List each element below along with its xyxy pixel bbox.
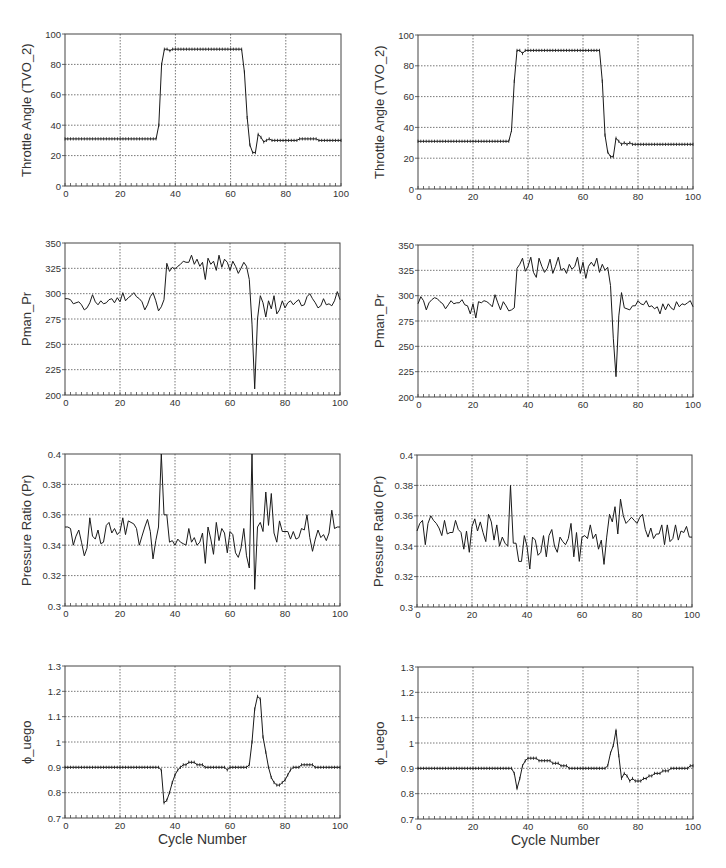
y-tick-label: 20 [403, 153, 414, 164]
x-tick-label: 60 [225, 397, 236, 408]
x-axis-label: Cycle Number [158, 831, 247, 847]
y-tick-label: 0 [409, 184, 414, 195]
plot-frame [65, 34, 341, 186]
y-axis-label: ϕ_uego [372, 721, 387, 764]
y-tick-label: 200 [45, 390, 61, 401]
x-tick-label: 20 [467, 609, 478, 620]
x-tick-label: 40 [170, 188, 181, 199]
y-tick-label: 350 [45, 238, 61, 249]
y-axis-label: Pman_Pr [372, 294, 387, 348]
x-tick-label: 80 [633, 191, 644, 202]
plot-frame [418, 667, 693, 819]
y-tick-label: 0.34 [43, 540, 62, 551]
y-tick-label: 250 [45, 339, 61, 350]
plot-area: 0.30.320.340.360.380.4020406080100 [65, 454, 340, 606]
y-axis-label: ϕ_uego [19, 720, 34, 763]
y-tick-label: 100 [45, 29, 61, 40]
plot-area: 0.30.320.340.360.380.4020406080100 [417, 455, 692, 607]
y-tick-label: 0.32 [395, 571, 414, 582]
y-tick-label: 1.1 [401, 712, 414, 723]
x-tick-label: 100 [333, 188, 349, 199]
y-tick-label: 40 [403, 122, 414, 133]
y-tick-label: 40 [50, 120, 61, 131]
plot-area: 020406080100020406080100 [65, 34, 341, 186]
y-tick-label: 0.9 [48, 762, 61, 773]
x-tick-label: 20 [468, 191, 479, 202]
x-tick-label: 40 [170, 397, 181, 408]
y-tick-label: 1.3 [48, 661, 61, 672]
y-tick-label: 0.32 [43, 570, 62, 581]
x-tick-label: 100 [685, 191, 701, 202]
series-line [65, 696, 340, 802]
y-tick-label: 300 [45, 288, 61, 299]
y-tick-label: 1.2 [401, 687, 414, 698]
y-tick-label: 225 [398, 366, 414, 377]
x-tick-label: 40 [523, 399, 534, 410]
y-axis-label: Pman_Pr [19, 292, 34, 346]
y-tick-label: 1 [409, 738, 414, 749]
plot-area: 0.70.80.911.11.21.3020406080100 [418, 667, 693, 819]
y-axis-label: Pressure Ratio (Pr) [19, 474, 34, 585]
y-tick-label: 275 [45, 314, 61, 325]
y-tick-label: 0.3 [48, 601, 61, 612]
plot-right-throttle: 020406080100020406080100 Throttle Angle … [418, 35, 693, 189]
y-tick-label: 275 [398, 316, 414, 327]
x-tick-label: 0 [63, 188, 68, 199]
x-tick-label: 60 [225, 188, 236, 199]
x-tick-label: 100 [685, 399, 701, 410]
y-tick-label: 100 [398, 30, 414, 41]
x-tick-label: 80 [632, 609, 643, 620]
x-tick-label: 100 [332, 820, 348, 831]
x-tick-label: 0 [63, 820, 68, 831]
x-tick-label: 60 [578, 191, 589, 202]
plot-frame [65, 454, 340, 606]
series-line [65, 255, 340, 389]
y-tick-label: 0.9 [401, 763, 414, 774]
x-tick-label: 0 [416, 191, 421, 202]
plot-right-pman: 200225250275300325350020406080100 Pman_P… [418, 245, 693, 397]
plot-area: 200225250275300325350020406080100 [65, 243, 340, 395]
y-tick-label: 1.2 [48, 686, 61, 697]
y-tick-label: 0.8 [48, 787, 61, 798]
x-tick-label: 60 [577, 609, 588, 620]
y-tick-label: 0.38 [43, 479, 62, 490]
series-line [418, 730, 693, 788]
series-line [65, 454, 340, 589]
x-tick-label: 60 [225, 820, 236, 831]
x-tick-label: 60 [578, 399, 589, 410]
x-tick-label: 20 [115, 397, 126, 408]
y-tick-label: 60 [403, 91, 414, 102]
y-tick-label: 0.4 [48, 449, 61, 460]
y-tick-label: 225 [45, 364, 61, 375]
x-tick-label: 80 [633, 821, 644, 832]
y-tick-label: 20 [50, 150, 61, 161]
x-tick-label: 100 [332, 397, 348, 408]
x-tick-label: 100 [685, 821, 701, 832]
y-tick-label: 0.3 [400, 602, 413, 613]
x-tick-label: 40 [523, 821, 534, 832]
x-tick-label: 80 [280, 820, 291, 831]
y-tick-label: 0.7 [48, 813, 61, 824]
y-tick-label: 350 [398, 240, 414, 251]
plot-frame [418, 35, 693, 189]
plot-frame [65, 666, 340, 818]
y-tick-label: 0.4 [400, 450, 413, 461]
y-tick-label: 80 [50, 59, 61, 70]
x-tick-label: 20 [115, 820, 126, 831]
y-tick-label: 250 [398, 341, 414, 352]
y-tick-label: 0.36 [395, 510, 414, 521]
y-tick-label: 0.34 [395, 541, 414, 552]
x-tick-label: 0 [415, 609, 420, 620]
plot-area: 0.70.80.911.11.21.3020406080100 [65, 666, 340, 818]
plot-right-pressure-ratio: 0.30.320.340.360.380.4020406080100 Press… [417, 455, 692, 607]
y-tick-label: 0.36 [43, 509, 62, 520]
y-tick-label: 1.1 [48, 711, 61, 722]
series-line [418, 257, 693, 377]
y-axis-label: Throttle Angle (TVO_2) [19, 43, 34, 177]
y-tick-label: 300 [398, 290, 414, 301]
x-tick-label: 40 [523, 191, 534, 202]
plot-area: 200225250275300325350020406080100 [418, 245, 693, 397]
plot-area: 020406080100020406080100 [418, 35, 693, 189]
x-tick-label: 80 [280, 397, 291, 408]
x-tick-label: 80 [280, 608, 291, 619]
